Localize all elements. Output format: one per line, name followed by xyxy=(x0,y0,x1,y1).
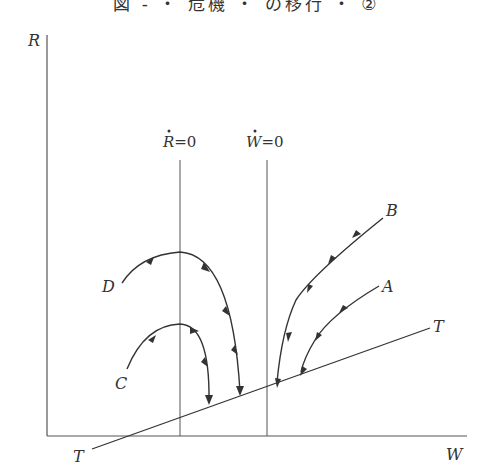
nullcline-r: R=0 xyxy=(162,130,196,437)
svg-text:R=0: R=0 xyxy=(162,133,196,151)
trajectory-a: A xyxy=(300,277,394,376)
trajectory-b: B xyxy=(275,201,398,388)
svg-text:W=0: W=0 xyxy=(246,133,284,151)
t-line-label-end: T xyxy=(433,317,445,336)
nullcline-w-eq: =0 xyxy=(261,133,283,151)
dot-accent-r xyxy=(168,130,171,133)
trajectory-d-label: D xyxy=(101,277,115,296)
nullcline-r-var: R xyxy=(162,133,174,151)
nullcline-w: W=0 xyxy=(246,130,284,437)
trajectory-a-label: A xyxy=(380,277,394,296)
t-line-label-start: T xyxy=(73,447,85,466)
trajectory-c-label: C xyxy=(115,374,127,393)
nullcline-r-eq: =0 xyxy=(174,133,196,151)
y-axis-label: R xyxy=(27,31,40,50)
t-line: T T xyxy=(73,317,445,466)
dot-accent-w xyxy=(254,130,257,133)
phase-diagram: R W R=0 W=0 T T D C xyxy=(0,0,493,473)
trajectory-b-label: B xyxy=(385,201,398,220)
axes: R W xyxy=(27,31,467,464)
x-axis-label: W xyxy=(446,445,464,464)
trajectory-c: C xyxy=(115,324,213,405)
